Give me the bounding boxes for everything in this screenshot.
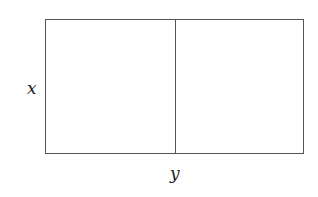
side-label-x: x — [27, 78, 37, 98]
vertical-divider-line — [175, 19, 176, 154]
bottom-label-y: y — [170, 163, 180, 183]
